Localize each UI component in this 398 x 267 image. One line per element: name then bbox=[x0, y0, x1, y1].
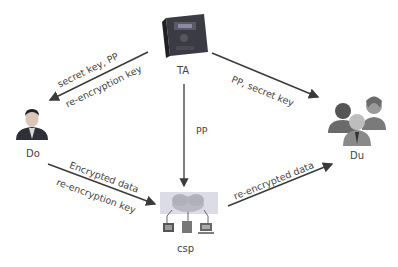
node-label-ta: TA bbox=[177, 65, 189, 76]
node-label-csp: csp bbox=[177, 243, 194, 254]
diagram-canvas: TA Do Du csp secret key, PP re-encryptio… bbox=[0, 0, 398, 267]
node-label-du: Du bbox=[350, 150, 364, 161]
user-group-icon bbox=[328, 97, 386, 147]
node-label-do: Do bbox=[26, 148, 40, 159]
cloud-network-icon bbox=[160, 192, 218, 233]
server-icon bbox=[162, 14, 208, 58]
edge-csp-to-du bbox=[228, 164, 332, 206]
edge-label-ta-csp: PP bbox=[196, 125, 207, 136]
user-icon bbox=[16, 109, 48, 140]
